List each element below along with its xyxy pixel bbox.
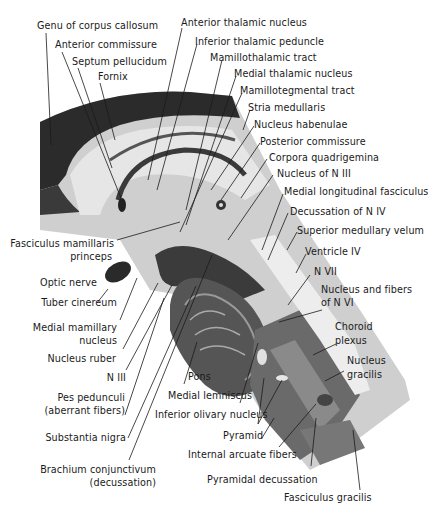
- label-choroid-plexus: Choroid: [335, 321, 373, 333]
- label-medial-thalamic-nucleus: Medial thalamic nucleus: [234, 68, 353, 80]
- label-tuber-cinereum: Tuber cinereum: [41, 297, 117, 309]
- label-n-vii: N VII: [314, 266, 337, 278]
- label-pes-pedunculi: Pes pedunculi: [57, 392, 125, 404]
- label-pons: Pons: [188, 371, 211, 383]
- label-nucleus-habenulae: Nucleus habenulae: [254, 119, 348, 131]
- label-fasciculus-mamillaris-princeps-line2: princeps: [70, 251, 112, 263]
- label-nucleus-n-iii: Nucleus of N III: [277, 168, 351, 180]
- label-optic-nerve: Optic nerve: [40, 277, 97, 289]
- label-genu-corpus-callosum: Genu of corpus callosum: [37, 20, 158, 32]
- label-decussation-n-iv: Decussation of N IV: [290, 206, 386, 218]
- label-medial-longitudinal-fasciculus: Medial longitudinal fasciculus: [284, 186, 428, 198]
- label-nucleus-gracilis: Nucleus: [347, 355, 386, 367]
- label-stria-medullaris: Stria medullaris: [248, 102, 325, 114]
- label-medial-mamillary-nucleus-line2: nucleus: [79, 335, 117, 347]
- label-mamillotegmental-tract: Mamillotegmental tract: [240, 85, 355, 97]
- label-anterior-commissure: Anterior commissure: [55, 39, 157, 51]
- label-pyramidal-decussation: Pyramidal decussation: [207, 474, 318, 486]
- label-substantia-nigra: Substantia nigra: [45, 432, 126, 444]
- label-fasciculus-gracilis: Fasciculus gracilis: [284, 492, 372, 504]
- label-septum-pellucidum: Septum pellucidum: [72, 56, 167, 68]
- anatomy-figure: Genu of corpus callosum Anterior commiss…: [0, 0, 438, 514]
- label-brachium-conjunctivum: Brachium conjunctivum: [40, 464, 156, 476]
- label-anterior-thalamic-nucleus: Anterior thalamic nucleus: [181, 17, 307, 29]
- label-corpora-quadrigemina: Corpora quadrigemina: [269, 152, 379, 164]
- label-nucleus-fibers-n-vi: Nucleus and fibers: [321, 284, 412, 296]
- label-ventricle-iv: Ventricle IV: [305, 246, 361, 258]
- label-medial-lemniscus: Medial lemniscus: [168, 390, 252, 402]
- label-choroid-plexus-line2: plexus: [335, 335, 367, 347]
- label-superior-medullary-velum: Superior medullary velum: [297, 225, 424, 237]
- label-nucleus-ruber: Nucleus ruber: [48, 353, 117, 365]
- label-posterior-commissure: Posterior commissure: [260, 136, 366, 148]
- label-mamillothalamic-tract: Mamillothalamic tract: [210, 52, 317, 64]
- label-nucleus-gracilis-line2: gracilis: [347, 369, 382, 381]
- label-brachium-conjunctivum-line2: (decussation): [90, 477, 156, 489]
- label-n-iii: N III: [107, 372, 126, 384]
- label-pyramid: Pyramid: [223, 430, 263, 442]
- label-inferior-olivary-nucleus: Inferior olivary nucleus: [155, 409, 268, 421]
- label-inferior-thalamic-peduncle: Inferior thalamic peduncle: [195, 36, 324, 48]
- label-internal-arcuate-fibers: Internal arcuate fibers: [188, 449, 297, 461]
- label-nucleus-fibers-n-vi-line2: of N VI: [321, 297, 354, 309]
- label-medial-mamillary-nucleus: Medial mamillary: [33, 322, 117, 334]
- label-pes-pedunculi-line2: (aberrant fibers): [44, 405, 125, 417]
- label-fornix: Fornix: [98, 71, 128, 83]
- label-fasciculus-mamillaris-princeps: Fasciculus mamillaris: [10, 238, 114, 250]
